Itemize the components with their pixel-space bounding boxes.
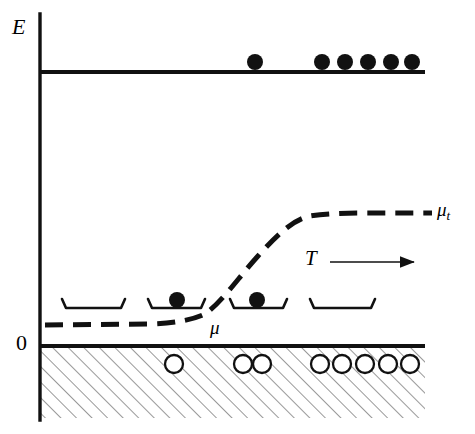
electrons-in-conduction-band bbox=[247, 54, 420, 70]
electron-marker bbox=[404, 54, 420, 70]
donor-bracket-1 bbox=[62, 299, 125, 308]
electron-marker bbox=[247, 54, 263, 70]
electron-marker bbox=[249, 292, 265, 308]
band-diagram-figure: E 0 μ μt T bbox=[0, 0, 475, 434]
donor-bracket-4 bbox=[310, 299, 375, 308]
hole-marker bbox=[379, 355, 397, 373]
electron-marker bbox=[314, 54, 330, 70]
hole-marker bbox=[165, 355, 183, 373]
chemical-potential-label: μ bbox=[210, 318, 220, 337]
hole-marker bbox=[234, 355, 252, 373]
trap-chemical-potential-label: μt bbox=[437, 200, 450, 222]
hole-marker bbox=[311, 355, 329, 373]
temperature-label: T bbox=[305, 248, 317, 269]
electron-marker bbox=[360, 54, 376, 70]
hole-marker bbox=[253, 355, 271, 373]
diagram-canvas bbox=[0, 0, 475, 434]
electron-marker bbox=[383, 54, 399, 70]
mu-subscript: t bbox=[447, 208, 451, 223]
mu-base: μ bbox=[437, 199, 447, 220]
hole-marker bbox=[401, 355, 419, 373]
energy-axis-label: E bbox=[12, 16, 25, 38]
hole-marker bbox=[333, 355, 351, 373]
hole-marker bbox=[356, 355, 374, 373]
electron-marker bbox=[337, 54, 353, 70]
electron-marker bbox=[169, 292, 185, 308]
zero-level-label: 0 bbox=[16, 332, 27, 354]
